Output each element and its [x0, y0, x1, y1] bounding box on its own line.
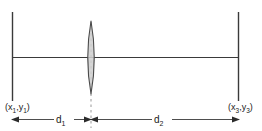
optical-diagram-canvas: (x1,y1) (x3,y3) d1 d2 [0, 0, 262, 131]
d1-subscript: 1 [62, 120, 66, 127]
d2-label: d2 [154, 114, 164, 127]
d1-label: d1 [56, 114, 66, 127]
object-plane-label: (x1,y1) [5, 102, 30, 114]
d2-subscript: 2 [160, 120, 164, 127]
image-plane-label: (x3,y3) [228, 102, 253, 114]
optical-ray-diagram: (x1,y1) (x3,y3) d1 d2 [0, 0, 262, 131]
image-label-paren-close: ) [250, 102, 253, 112]
d1-left-arrowhead-icon [11, 117, 19, 123]
converging-lens [88, 21, 95, 94]
d2-right-arrowhead-icon [232, 117, 240, 123]
object-label-paren-close: ) [27, 102, 30, 112]
